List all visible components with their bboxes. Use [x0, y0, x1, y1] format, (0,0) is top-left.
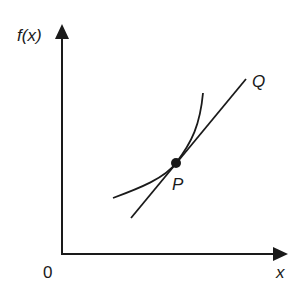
point-q-label: Q: [252, 72, 265, 91]
point-p-label: P: [172, 175, 184, 194]
tangent-line-pq: [131, 79, 246, 218]
y-axis-label: f(x): [17, 26, 42, 45]
x-axis-arrow-icon: [273, 247, 288, 261]
tangent-diagram: f(x) x 0 P Q: [0, 0, 300, 298]
y-axis-arrow-icon: [55, 24, 69, 39]
origin-label: 0: [43, 263, 52, 282]
point-p-marker: [171, 158, 181, 168]
x-axis-label: x: [275, 263, 285, 282]
curve: [113, 93, 203, 198]
